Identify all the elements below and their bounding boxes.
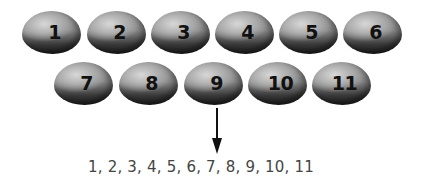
arrowhead-icon [212, 138, 222, 154]
egg-label: 2 [113, 21, 126, 43]
egg-8: 8 [119, 62, 178, 105]
egg-label: 11 [332, 72, 357, 94]
egg-label: 4 [241, 21, 254, 43]
egg-7: 7 [54, 62, 113, 105]
egg-label: 5 [305, 21, 318, 43]
egg-label: 8 [145, 72, 158, 94]
egg-label: 10 [268, 72, 293, 94]
egg-11: 11 [312, 62, 371, 105]
egg-9: 9 [184, 62, 243, 105]
egg-label: 3 [177, 21, 190, 43]
egg-label: 7 [80, 72, 93, 94]
egg-5: 5 [279, 11, 338, 54]
egg-label: 1 [48, 21, 61, 43]
egg-4: 4 [215, 11, 274, 54]
egg-label: 6 [369, 21, 382, 43]
egg-1: 1 [22, 11, 81, 54]
egg-3: 3 [151, 11, 210, 54]
egg-label: 9 [210, 72, 223, 94]
egg-6: 6 [343, 11, 402, 54]
arrow-down-icon [216, 108, 218, 140]
egg-2: 2 [87, 11, 146, 54]
egg-10: 10 [248, 62, 307, 105]
sequence-text: 1, 2, 3, 4, 5, 6, 7, 8, 9, 10, 11 [88, 158, 348, 176]
